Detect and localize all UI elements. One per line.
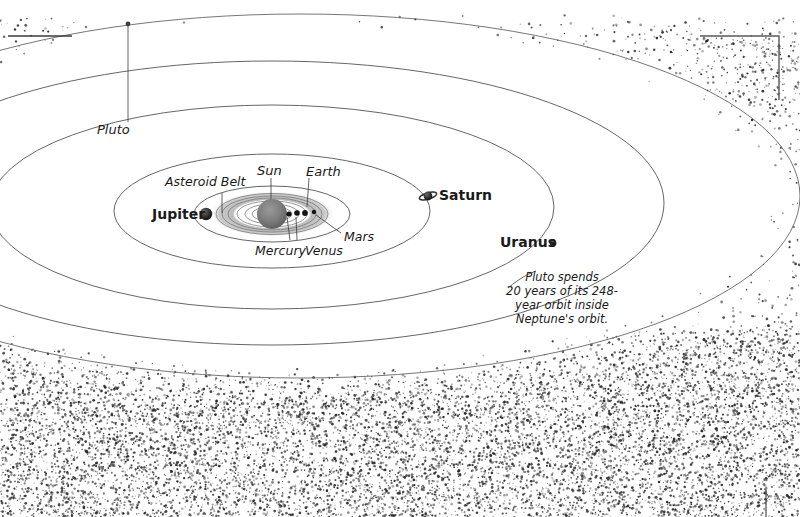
label-asteroid-belt: Asteroid Belt bbox=[165, 174, 245, 189]
registration-marks bbox=[0, 0, 800, 517]
label-venus: Venus bbox=[305, 243, 343, 258]
label-saturn: Saturn bbox=[439, 187, 492, 203]
label-mercury: Mercury bbox=[255, 243, 306, 258]
label-pluto: Pluto bbox=[97, 122, 130, 137]
label-mars: Mars bbox=[344, 229, 374, 244]
top-right-corner-mark bbox=[700, 36, 779, 100]
solar-system-figure: Pluto Asteroid Belt Sun Earth Jupiter Sa… bbox=[0, 0, 800, 517]
pluto-orbit-annotation: Pluto spends 20 years of its 248- year o… bbox=[506, 270, 618, 326]
label-sun: Sun bbox=[257, 163, 282, 178]
label-uranus: Uranus bbox=[500, 234, 556, 250]
label-earth: Earth bbox=[306, 164, 341, 179]
label-jupiter: Jupiter bbox=[152, 206, 205, 222]
